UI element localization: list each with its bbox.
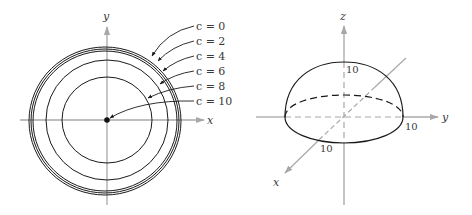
hemisphere-figure: z y x 10 10 10 [256, 10, 449, 205]
tick-x-10: 10 [320, 143, 333, 154]
label-c10: c = 10 [196, 95, 232, 108]
x-axis-label: x [207, 114, 214, 127]
x-axis-upper-segment [375, 58, 406, 87]
label-c2: c = 2 [196, 35, 225, 48]
leader-c0 [152, 26, 194, 56]
y-axis-label: y [102, 10, 110, 23]
z-axis-label: z [339, 10, 346, 23]
label-c6: c = 6 [196, 65, 225, 78]
base-ellipse-front [285, 117, 403, 143]
leader-c2 [158, 41, 194, 61]
leader-c4 [163, 56, 194, 71]
label-c0: c = 0 [196, 20, 225, 33]
tick-y-10: 10 [405, 121, 418, 132]
label-c4: c = 4 [196, 50, 225, 63]
x-axis-lower-segment [285, 137, 322, 173]
figure-canvas: x y c = 0 c = 2 c = 4 c = 6 c = 8 c = 10 [0, 0, 472, 215]
level-curves-figure: x y c = 0 c = 2 c = 4 c = 6 c = 8 c = 10 [20, 10, 232, 205]
label-c8: c = 8 [196, 80, 225, 93]
level-curve-c10-point [104, 117, 110, 123]
y-axis-label-3d: y [441, 111, 449, 124]
x-axis-label-3d: x [273, 176, 280, 189]
hemisphere-dome-outline [285, 62, 403, 117]
tick-z-10: 10 [346, 64, 359, 75]
